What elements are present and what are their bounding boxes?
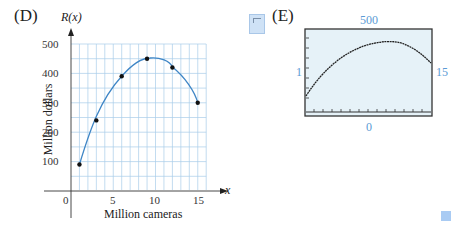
corner-square-icon	[441, 211, 451, 221]
panel-e-label: (E)	[272, 6, 294, 26]
y-axis-arrow-icon	[68, 28, 74, 36]
axes	[44, 34, 222, 218]
y-axis-title: Million dollars	[41, 70, 56, 170]
x-tick-15: 15	[193, 194, 204, 206]
window-ymax-label: 500	[360, 13, 378, 28]
y-tick-500: 500	[42, 38, 59, 50]
grid	[71, 44, 206, 190]
x-tick-0: 0	[63, 194, 69, 206]
calculator-icon[interactable]	[249, 14, 265, 34]
chart-d	[0, 0, 240, 234]
x-axis-arrow-icon	[220, 188, 228, 194]
calculator-screen	[304, 28, 434, 118]
x-axis-title: Million cameras	[104, 207, 182, 222]
window-xmax-label: 15	[436, 65, 448, 80]
x-tick-5: 5	[110, 194, 116, 206]
x-tick-10: 10	[149, 194, 160, 206]
window-ymin-label: 0	[366, 120, 372, 135]
window-xmin-label: 1	[296, 65, 302, 80]
